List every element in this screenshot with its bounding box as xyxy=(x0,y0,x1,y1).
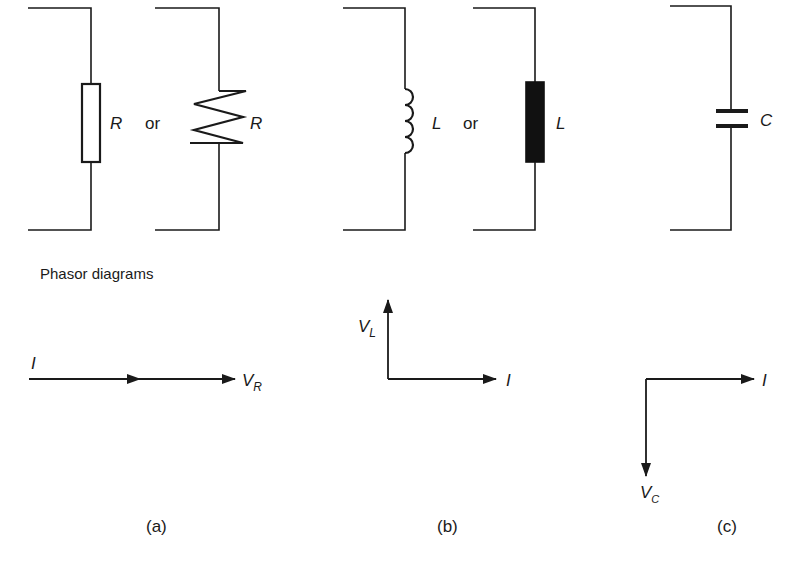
label-c: C xyxy=(760,112,772,129)
label-or-a: or xyxy=(145,115,160,132)
label-vl: VL xyxy=(358,318,376,335)
phasor-b xyxy=(388,300,496,379)
label-i-a: I xyxy=(31,355,36,372)
label-or-b: or xyxy=(463,115,478,132)
label-l-block: L xyxy=(556,115,565,132)
caption-b: (b) xyxy=(437,518,458,535)
circuit-diagram-canvas xyxy=(0,0,798,575)
resistor-zigzag-circuit xyxy=(155,8,246,230)
label-vr: VR xyxy=(242,372,262,389)
inductor-block-circuit xyxy=(473,8,544,230)
phasor-c xyxy=(646,379,754,476)
resistor-zigzag-symbol xyxy=(190,91,246,143)
phasor-diagrams-title: Phasor diagrams xyxy=(40,266,153,281)
resistor-box-symbol xyxy=(82,84,100,162)
caption-c: (c) xyxy=(717,518,737,535)
resistor-box-circuit xyxy=(28,8,100,230)
label-r-box: R xyxy=(110,115,122,132)
label-i-b: I xyxy=(506,372,511,389)
label-l-coil: L xyxy=(432,115,441,132)
label-r-zigzag: R xyxy=(250,115,262,132)
caption-a: (a) xyxy=(146,518,167,535)
inductor-coil-symbol xyxy=(405,89,413,153)
inductor-coil-circuit xyxy=(343,8,413,230)
label-i-c: I xyxy=(762,372,767,389)
inductor-block-symbol xyxy=(526,82,544,162)
label-vc: VC xyxy=(640,484,659,501)
capacitor-circuit xyxy=(670,6,748,230)
